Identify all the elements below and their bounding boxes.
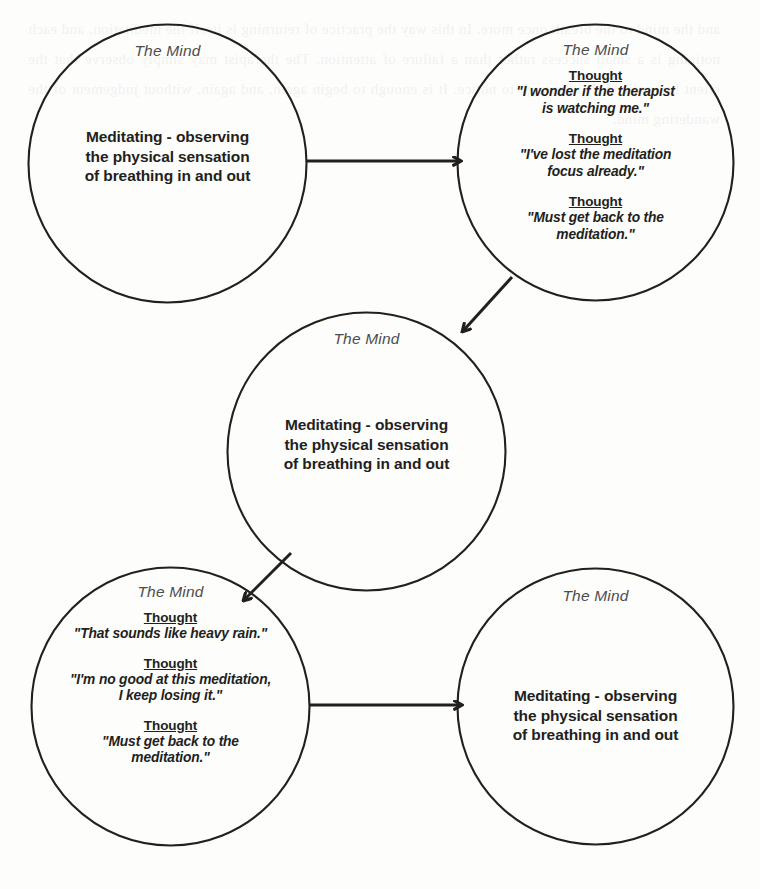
thought-item: Thought "I've lost the meditation focus … xyxy=(516,131,674,180)
mind-node-meditating-2: The Mind Meditating - observing the phys… xyxy=(227,311,506,592)
thought-heading: Thought xyxy=(516,131,674,146)
diagram-page: and the mind to the breath once more. In… xyxy=(0,0,760,889)
meditation-text: Meditating - observing the physical sens… xyxy=(284,415,450,474)
thought-item: Thought "Must get back to the meditation… xyxy=(516,194,674,243)
thought-quote: "Must get back to the meditation." xyxy=(516,210,674,243)
mind-label: The Mind xyxy=(562,587,628,605)
mind-node-meditating-1: The Mind Meditating - observing the phys… xyxy=(28,22,307,305)
thought-item: Thought "Must get back to the meditation… xyxy=(70,718,271,767)
thought-quote: "Must get back to the meditation." xyxy=(70,734,271,767)
thought-item: Thought "I wonder if the therapist is wa… xyxy=(516,68,674,117)
mind-node-thoughts-1: The Mind Thought "I wonder if the therap… xyxy=(457,22,734,303)
thought-heading: Thought xyxy=(516,68,674,83)
meditation-text: Meditating - observing the physical sens… xyxy=(85,127,251,186)
thought-quote: "I'm no good at this meditation, I keep … xyxy=(70,672,271,705)
thought-list: Thought "I wonder if the therapist is wa… xyxy=(516,68,674,243)
thought-quote: "I wonder if the therapist is watching m… xyxy=(516,84,674,117)
mind-label: The Mind xyxy=(134,42,200,60)
mind-label: The Mind xyxy=(137,583,203,601)
mind-label: The Mind xyxy=(333,330,399,348)
thought-heading: Thought xyxy=(516,194,674,209)
thought-heading: Thought xyxy=(70,610,271,625)
thought-quote: "I've lost the meditation focus already.… xyxy=(516,147,674,180)
thought-quote: "That sounds like heavy rain." xyxy=(70,626,271,643)
mind-node-thoughts-2: The Mind Thought "That sounds like heavy… xyxy=(31,566,310,847)
thought-item: Thought "I'm no good at this meditation,… xyxy=(70,656,271,705)
mind-node-meditating-3: The Mind Meditating - observing the phys… xyxy=(457,566,734,847)
thought-item: Thought "That sounds like heavy rain." xyxy=(70,610,271,643)
mind-label: The Mind xyxy=(562,41,628,59)
thought-heading: Thought xyxy=(70,718,271,733)
thought-heading: Thought xyxy=(70,656,271,671)
thought-list: Thought "That sounds like heavy rain." T… xyxy=(70,610,271,767)
meditation-text: Meditating - observing the physical sens… xyxy=(513,686,679,745)
